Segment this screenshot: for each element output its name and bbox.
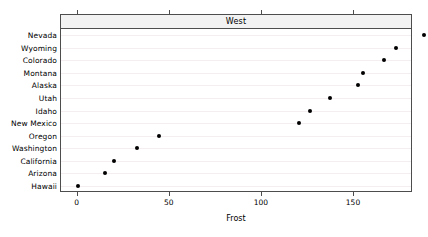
y-axis-tick-label: Hawaii — [1, 181, 57, 190]
data-point — [297, 121, 301, 125]
gridline — [61, 111, 411, 112]
y-axis-tick-label: California — [1, 156, 57, 165]
data-point — [356, 83, 360, 87]
y-axis-tick-label: Colorado — [1, 56, 57, 65]
y-axis-tick-label: Oregon — [1, 131, 57, 140]
y-axis-tick-label: Utah — [1, 93, 57, 102]
gridline — [61, 136, 411, 137]
gridline — [61, 186, 411, 187]
x-axis-tick-label: 50 — [164, 198, 174, 207]
x-axis-title: Frost — [60, 214, 412, 223]
x-axis-tick — [353, 192, 354, 196]
y-axis-tick-label: Idaho — [1, 106, 57, 115]
data-point — [157, 134, 161, 138]
gridline — [61, 35, 411, 36]
x-axis-tick-label: 100 — [254, 198, 268, 207]
dotplot-figure: West NevadaWyomingColoradoMontanaAlaskaU… — [0, 0, 428, 237]
y-axis-tick-label: Arizona — [1, 169, 57, 178]
data-point — [382, 58, 386, 62]
x-axis-tick-label: 0 — [74, 198, 79, 207]
gridline — [61, 98, 411, 99]
y-axis-tick-label: New Mexico — [1, 119, 57, 128]
x-axis-tick — [261, 192, 262, 196]
x-axis-tick — [77, 192, 78, 196]
gridline — [61, 60, 411, 61]
strip-label: West — [61, 15, 411, 28]
data-point — [361, 71, 365, 75]
gridline — [61, 173, 411, 174]
y-axis-tick-label: Washington — [1, 144, 57, 153]
plot-panel — [60, 29, 412, 192]
gridline — [61, 148, 411, 149]
gridline — [61, 48, 411, 49]
y-axis-tick-label: Wyoming — [1, 43, 57, 52]
y-axis-tick-label: Nevada — [1, 31, 57, 40]
x-axis-tick — [169, 192, 170, 196]
data-point — [76, 184, 80, 188]
panel-strip-header: West — [60, 14, 412, 29]
data-point — [135, 146, 139, 150]
x-axis: 050100150 — [60, 192, 412, 214]
data-point — [328, 96, 332, 100]
data-point — [112, 159, 116, 163]
plot-area — [61, 29, 411, 191]
data-point — [422, 33, 426, 37]
data-point — [308, 109, 312, 113]
y-axis-tick-label: Alaska — [1, 81, 57, 90]
data-point — [394, 46, 398, 50]
y-axis-tick-label: Montana — [1, 68, 57, 77]
gridline — [61, 123, 411, 124]
data-point — [103, 171, 107, 175]
x-axis-tick-label: 150 — [346, 198, 360, 207]
gridline — [61, 73, 411, 74]
y-axis-labels: NevadaWyomingColoradoMontanaAlaskaUtahId… — [0, 29, 57, 192]
